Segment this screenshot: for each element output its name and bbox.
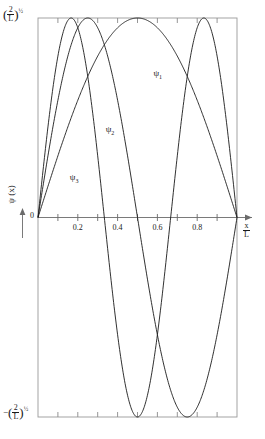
- curve-label-subscript-psi_3: 3: [75, 177, 78, 183]
- origin-label: 0: [30, 211, 34, 220]
- y-axis-title-text: ψ (x): [7, 185, 16, 203]
- curve-label-psi_3: ψ3: [70, 172, 79, 184]
- wavefunction-chart: (2L)½ −(2L)½ ψ (x) xL 0 0.20.40.60.8 ψ1ψ…: [0, 0, 265, 439]
- y-min-exponent: ½: [24, 406, 29, 412]
- x-tick-label-1: 0.4: [113, 223, 123, 232]
- plot-canvas: [0, 0, 265, 439]
- y-axis-max-label: (2L)½: [3, 6, 23, 24]
- x-axis-title: xL: [243, 222, 250, 240]
- y-axis-arrow: [20, 208, 26, 215]
- curve-label-subscript-psi_2: 2: [111, 130, 114, 136]
- y-axis-title: ψ (x): [2, 190, 16, 199]
- curve-label-subscript-psi_1: 1: [159, 74, 162, 80]
- x-axis-arrow: [245, 215, 252, 221]
- x-tick-label-3: 0.8: [192, 223, 202, 232]
- x-tick-label-2: 0.6: [152, 223, 162, 232]
- y-max-exponent: ½: [19, 8, 24, 14]
- x-axis-denominator: L: [243, 231, 250, 239]
- curve-label-psi_1: ψ1: [153, 68, 162, 80]
- x-tick-label-0: 0.2: [73, 223, 83, 232]
- y-axis: [20, 208, 26, 238]
- y-axis-min-label: −(2L)½: [3, 404, 28, 422]
- curve-label-psi_2: ψ2: [106, 124, 115, 136]
